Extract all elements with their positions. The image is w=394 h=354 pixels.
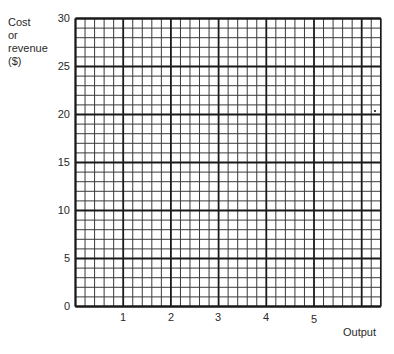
scan-artifact-dot: [374, 110, 376, 112]
graph-paper-grid: [0, 0, 394, 354]
